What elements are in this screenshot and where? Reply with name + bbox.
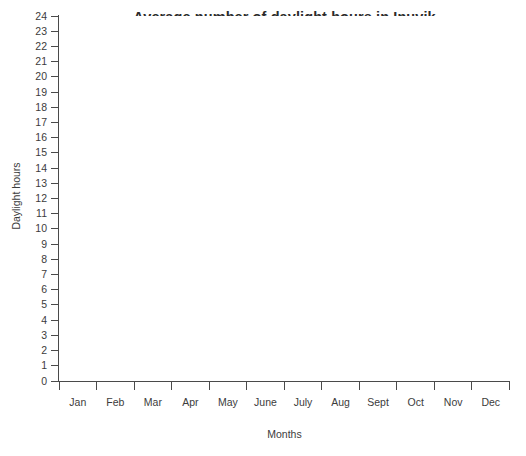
y-axis-tick — [51, 107, 59, 108]
x-axis-tick — [171, 381, 172, 390]
y-axis-tick — [51, 350, 59, 351]
y-axis-tick-label: 2 — [18, 345, 47, 355]
y-axis-title: Daylight hours — [10, 136, 22, 256]
plot-area — [59, 16, 510, 381]
x-axis-tick — [59, 381, 60, 390]
y-axis-tick — [51, 92, 59, 93]
x-axis-tick — [434, 381, 435, 390]
y-axis-tick-label: 23 — [18, 26, 47, 36]
y-axis-tick-label: 8 — [18, 254, 47, 264]
y-axis-tick-label: 14 — [18, 163, 47, 173]
y-axis-tick-label: 4 — [18, 315, 47, 325]
y-axis-tick-label: 5 — [18, 299, 47, 309]
y-axis-tick — [51, 274, 59, 275]
y-axis-tick — [51, 122, 59, 123]
y-axis-tick-label: 12 — [18, 193, 47, 203]
x-axis-tick — [321, 381, 322, 390]
x-axis-tick — [396, 381, 397, 390]
x-axis-tick — [284, 381, 285, 390]
x-axis-tick — [96, 381, 97, 390]
y-axis-tick — [51, 31, 59, 32]
y-axis-tick-label: 10 — [18, 223, 47, 233]
y-axis-tick-label: 7 — [18, 269, 47, 279]
y-axis-tick-label: 15 — [18, 147, 47, 157]
y-axis-tick-label: 3 — [18, 330, 47, 340]
y-axis-tick-label: 17 — [18, 117, 47, 127]
y-axis-tick — [51, 244, 59, 245]
x-axis-tick — [134, 381, 135, 390]
y-axis-tick-label: 6 — [18, 284, 47, 294]
x-axis-title: Months — [59, 428, 510, 440]
y-axis-tick — [51, 46, 59, 47]
y-axis-tick — [51, 213, 59, 214]
y-axis-tick-label: 21 — [18, 56, 47, 66]
y-axis-tick-label: 9 — [18, 239, 47, 249]
y-axis-tick — [51, 168, 59, 169]
y-axis-tick — [51, 320, 59, 321]
y-axis-tick — [51, 76, 59, 77]
y-axis-tick-label: 18 — [18, 102, 47, 112]
x-axis-tick — [509, 381, 510, 390]
y-axis-tick — [51, 183, 59, 184]
y-axis-tick-label: 0 — [18, 376, 47, 386]
y-axis-tick-label: 24 — [18, 11, 47, 21]
x-axis-tick-label: Dec — [461, 396, 521, 408]
y-axis-tick-label: 1 — [18, 360, 47, 370]
y-axis-tick — [51, 335, 59, 336]
x-axis-tick — [471, 381, 472, 390]
y-axis-tick — [51, 365, 59, 366]
y-axis-tick-label: 22 — [18, 41, 47, 51]
y-axis-tick — [51, 259, 59, 260]
x-axis-tick — [246, 381, 247, 390]
y-axis-tick-label: 11 — [18, 208, 47, 218]
y-axis-tick — [51, 198, 59, 199]
y-axis-tick-label: 13 — [18, 178, 47, 188]
y-axis-tick — [51, 61, 59, 62]
y-axis-tick-label: 20 — [18, 71, 47, 81]
y-axis-tick — [51, 137, 59, 138]
x-axis-tick — [209, 381, 210, 390]
y-axis-tick-label: 19 — [18, 87, 47, 97]
y-axis-tick — [51, 228, 59, 229]
y-axis-tick — [51, 289, 59, 290]
y-axis-tick-label: 16 — [18, 132, 47, 142]
chart-figure: Average number of daylight hours in Inuv… — [0, 0, 526, 456]
x-axis-tick — [359, 381, 360, 390]
y-axis-tick — [51, 304, 59, 305]
y-axis-tick — [51, 16, 59, 17]
y-axis-tick — [51, 152, 59, 153]
